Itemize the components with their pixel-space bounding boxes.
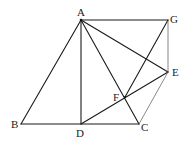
label-B: B: [11, 118, 18, 130]
geometry-diagram: A B C D E F G: [0, 0, 194, 145]
segment-AC: [81, 20, 139, 124]
segment-DE: [81, 72, 168, 124]
label-D: D: [76, 127, 84, 139]
segment-AB: [21, 20, 81, 124]
label-F: F: [113, 91, 119, 103]
point-F: [124, 96, 126, 98]
label-C: C: [141, 121, 148, 133]
label-A: A: [77, 6, 85, 18]
label-G: G: [170, 13, 178, 25]
segment-EC: [139, 72, 168, 124]
segment-AE: [81, 20, 168, 72]
point-A: [80, 19, 83, 22]
label-E: E: [172, 66, 179, 78]
